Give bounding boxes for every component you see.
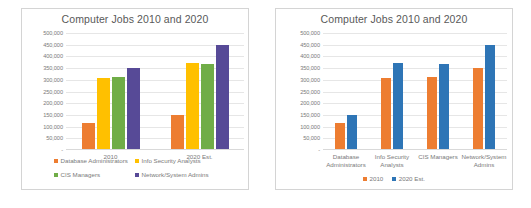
y-axis-tick-label: 500,000 bbox=[300, 30, 320, 36]
bar[interactable] bbox=[171, 115, 184, 149]
bar[interactable] bbox=[347, 115, 357, 149]
legend-item[interactable]: 2010 bbox=[363, 175, 383, 182]
legend-item[interactable]: CIS Managers bbox=[36, 171, 135, 178]
legend-label: 2010 bbox=[370, 175, 384, 182]
legend-label: Database Administrators bbox=[61, 157, 128, 164]
y-axis-tick-label: 100,000 bbox=[43, 124, 63, 130]
bar-group bbox=[369, 33, 415, 149]
y-axis-tick-label: 500,000 bbox=[43, 30, 63, 36]
legend-swatch-icon bbox=[135, 159, 139, 163]
y-axis-tick-label: 150,000 bbox=[43, 112, 63, 118]
x-axis-category-label: CIS Managers bbox=[415, 153, 461, 161]
legend-swatch-icon bbox=[54, 173, 58, 177]
plot-area-right: 500,000450,000400,000350,000300,000250,0… bbox=[323, 33, 507, 150]
plot-area-left: 500,000450,000400,000350,000300,000250,0… bbox=[66, 33, 244, 150]
bar[interactable] bbox=[97, 78, 110, 149]
y-axis-tick-label: - bbox=[318, 147, 320, 153]
bar[interactable] bbox=[381, 78, 391, 149]
bar-series-right bbox=[323, 33, 507, 149]
legend-swatch-icon bbox=[363, 177, 367, 181]
x-axis-category-label: Info Security Analysts bbox=[369, 153, 415, 169]
legend-item[interactable]: Network/System Admins bbox=[135, 171, 234, 178]
bar[interactable] bbox=[393, 63, 403, 149]
chart-panel-right[interactable]: Computer Jobs 2010 and 2020 500,000450,0… bbox=[275, 8, 513, 190]
chart-title-left: Computer Jobs 2010 and 2020 bbox=[22, 13, 248, 25]
y-axis-tick-label: 200,000 bbox=[300, 100, 320, 106]
legend-item[interactable]: Database Administrators bbox=[36, 157, 135, 164]
chart-panel-left[interactable]: Computer Jobs 2010 and 2020 500,000450,0… bbox=[21, 8, 249, 190]
y-axis-tick-label: 450,000 bbox=[300, 42, 320, 48]
y-axis-tick-label: 300,000 bbox=[43, 77, 63, 83]
y-axis-tick-label: 450,000 bbox=[43, 42, 63, 48]
y-axis-tick-label: 150,000 bbox=[300, 112, 320, 118]
y-axis-tick-label: 200,000 bbox=[43, 100, 63, 106]
y-axis-tick-label: 250,000 bbox=[43, 89, 63, 95]
y-axis-tick-label: 350,000 bbox=[43, 65, 63, 71]
y-axis-tick-label: 50,000 bbox=[303, 135, 320, 141]
bar[interactable] bbox=[427, 77, 437, 149]
bar-group bbox=[461, 33, 507, 149]
legend-label: Info Security Analysts bbox=[142, 157, 201, 164]
bar-group bbox=[66, 33, 155, 149]
bar[interactable] bbox=[485, 45, 495, 149]
legend-swatch-icon bbox=[392, 177, 396, 181]
bar-series-left bbox=[66, 33, 244, 149]
y-axis-tick-label: - bbox=[61, 147, 63, 153]
legend-right[interactable]: 20102020 Est. bbox=[276, 175, 512, 182]
chart-title-right: Computer Jobs 2010 and 2020 bbox=[276, 13, 512, 25]
legend-item[interactable]: 2020 Est. bbox=[392, 175, 425, 182]
y-axis-tick-label: 50,000 bbox=[46, 135, 63, 141]
bar[interactable] bbox=[473, 68, 483, 149]
legend-label: 2020 Est. bbox=[399, 175, 425, 182]
legend-label: CIS Managers bbox=[61, 171, 101, 178]
page-background: Computer Jobs 2010 and 2020 500,000450,0… bbox=[0, 0, 531, 208]
bar[interactable] bbox=[82, 123, 95, 149]
x-axis-line-right bbox=[323, 149, 507, 150]
bar-group bbox=[323, 33, 369, 149]
bar[interactable] bbox=[439, 64, 449, 149]
bar-group bbox=[155, 33, 244, 149]
bar-group bbox=[415, 33, 461, 149]
y-axis-tick-label: 400,000 bbox=[43, 53, 63, 59]
legend-left[interactable]: Database AdministratorsInfo Security Ana… bbox=[22, 157, 248, 178]
y-axis-tick-label: 100,000 bbox=[300, 124, 320, 130]
y-axis-tick-label: 250,000 bbox=[300, 89, 320, 95]
bar[interactable] bbox=[186, 63, 199, 149]
legend-swatch-icon bbox=[54, 159, 58, 163]
bar[interactable] bbox=[112, 77, 125, 149]
x-axis-line-left bbox=[66, 149, 244, 150]
y-axis-tick-label: 300,000 bbox=[300, 77, 320, 83]
bar[interactable] bbox=[127, 68, 140, 149]
legend-swatch-icon bbox=[135, 173, 139, 177]
bar[interactable] bbox=[216, 45, 229, 149]
legend-item[interactable]: Info Security Analysts bbox=[135, 157, 234, 164]
bar[interactable] bbox=[335, 123, 345, 149]
y-axis-tick-label: 400,000 bbox=[300, 53, 320, 59]
x-axis-category-label: Database Administrators bbox=[323, 153, 369, 169]
y-axis-tick-label: 350,000 bbox=[300, 65, 320, 71]
bar[interactable] bbox=[201, 64, 214, 149]
x-axis-category-label: Network/System Admins bbox=[461, 153, 507, 169]
legend-label: Network/System Admins bbox=[142, 171, 209, 178]
